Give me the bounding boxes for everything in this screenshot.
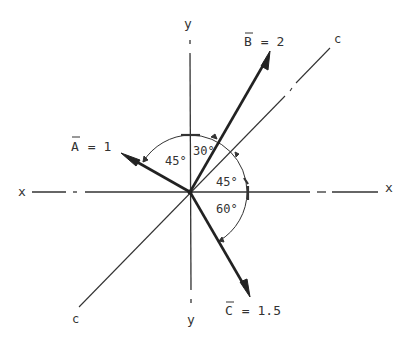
origin-point <box>188 190 193 195</box>
angle-c-x: 45° <box>216 175 238 189</box>
vector-diagram: x x y y c c A = 1 B = 2 C = 1.5 45° 30° … <box>0 0 409 342</box>
y-label-bottom: y <box>187 312 195 327</box>
label-b-letter: B <box>244 34 252 49</box>
label-c: C = 1.5 <box>225 302 281 318</box>
x-label-left: x <box>18 184 26 199</box>
c-line <box>79 48 330 307</box>
y-label-top: y <box>184 16 192 31</box>
label-c-value: = 1.5 <box>234 303 281 318</box>
vector-b <box>190 51 270 192</box>
label-a-letter: A <box>71 139 79 154</box>
label-a: A = 1 <box>71 137 111 154</box>
diagram-svg: x x y y c c A = 1 B = 2 C = 1.5 45° 30° … <box>0 0 409 342</box>
label-c-letter: C <box>225 303 233 318</box>
angle-a-y: 45° <box>165 154 187 168</box>
x-label-right: x <box>385 180 393 195</box>
c-label-top: c <box>334 32 341 46</box>
label-b-value: = 2 <box>253 34 284 49</box>
label-a-value: = 1 <box>80 139 111 154</box>
label-b: B = 2 <box>244 33 284 49</box>
c-label-bottom: c <box>72 312 79 326</box>
angle-x-c: 60° <box>216 202 238 216</box>
angle-y-b: 30° <box>193 144 215 158</box>
y-axis <box>190 40 191 303</box>
